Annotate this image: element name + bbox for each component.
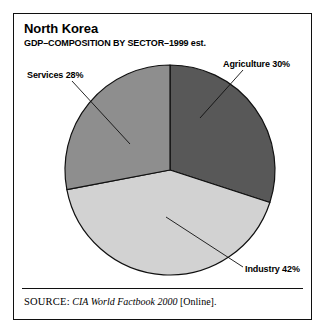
pie-chart bbox=[0, 0, 326, 332]
pie-slice-services bbox=[65, 65, 170, 190]
figure-pie-chart: North Korea GDP–COMPOSITION BY SECTOR–19… bbox=[0, 0, 326, 332]
pie-label-services: Services 28% bbox=[27, 70, 83, 80]
pie-svg bbox=[0, 0, 326, 332]
pie-label-agriculture: Agriculture 30% bbox=[223, 59, 290, 69]
pie-slice-group bbox=[65, 65, 275, 275]
source-suffix: [Online]. bbox=[180, 296, 216, 307]
source-divider bbox=[22, 288, 303, 289]
source-line: SOURCE: CIA World Factbook 2000 [Online]… bbox=[24, 296, 216, 307]
source-kicker: SOURCE: bbox=[24, 296, 70, 307]
source-work-title: CIA World Factbook 2000 bbox=[72, 296, 177, 307]
pie-label-industry: Industry 42% bbox=[245, 264, 300, 274]
